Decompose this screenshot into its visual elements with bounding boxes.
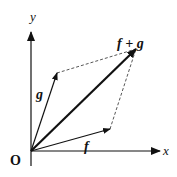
y-axis-label: y: [28, 9, 36, 24]
vector-f-label: f: [84, 139, 90, 154]
origin-label: O: [10, 153, 21, 168]
vector-g-label: g: [35, 87, 43, 102]
vector-f-plus-g: [31, 49, 136, 151]
vector-f-plus-g-label: f + g: [117, 36, 144, 51]
x-axis-label: x: [162, 143, 169, 158]
vector-addition-diagram: y x O g f f + g: [0, 0, 177, 177]
